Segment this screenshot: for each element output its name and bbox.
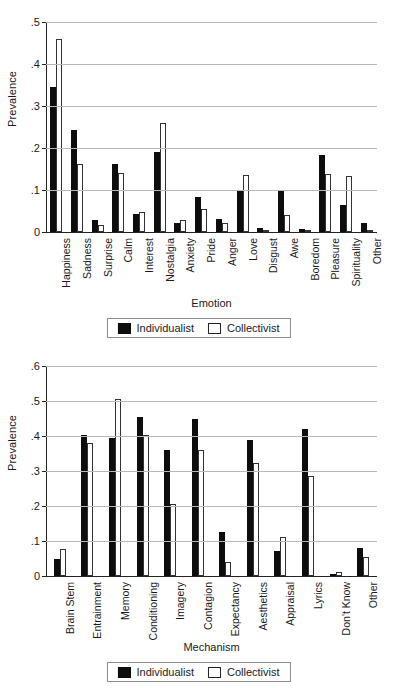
legend: Individualist Collectivist [106,318,290,338]
bar-collectivist [180,220,186,232]
gridline [46,106,377,107]
bar-collectivist [243,175,249,232]
y-axis-tick [42,366,46,367]
bar-group [108,22,129,232]
bar-collectivist [87,443,93,576]
mechanism-prevalence-chart: Prevalence 0.1.2.3.4.5.6 Brain StemEntra… [0,344,397,688]
x-axis-line [46,576,377,577]
bar-collectivist [346,176,352,232]
bar-collectivist [308,476,314,576]
bar-groups [46,22,377,232]
x-axis-tick-label: Other [368,582,379,608]
plot-area: 0.1.2.3.4.5 [46,22,377,232]
x-axis-tick-label-slot: Happiness [46,236,67,294]
y-axis-tick-label: 0 [34,227,40,238]
y-axis-tick-label: .6 [31,361,40,372]
legend-swatch-individualist-icon [117,667,130,678]
y-axis-tick [42,106,46,107]
bar-collectivist [160,123,166,232]
bar-group [294,22,315,232]
bar-group [315,22,336,232]
legend-entry-individualist: Individualist [117,322,193,334]
bar-collectivist [56,39,62,232]
x-axis-tick-label-slot: Disgust [253,236,274,294]
x-axis-tick-label-slot: Other [356,236,377,294]
y-axis-tick [42,64,46,65]
x-axis-tick-label-slot: Pleasure [315,236,336,294]
x-axis-tick-label-slot: Calm [108,236,129,294]
x-axis-line [46,232,377,233]
bar-collectivist [98,225,104,232]
legend: Individualist Collectivist [106,662,290,682]
x-axis-title: Mechanism [46,641,377,653]
x-axis-tick-label-slot: Appraisal [267,580,295,638]
bar-collectivist [336,572,342,576]
x-axis-tick-label-slot: Boredom [294,236,315,294]
y-axis-tick [42,576,46,577]
y-axis-tick-label: .1 [31,185,40,196]
x-axis-tick-label-slot: Spirituality [336,236,357,294]
bar-collectivist [225,562,231,576]
bar-group [87,22,108,232]
gridline [46,366,377,367]
gridline [46,436,377,437]
gridline [46,190,377,191]
x-axis-tick-label-slot: Surprise [87,236,108,294]
gridline [46,401,377,402]
y-axis-tick [42,232,46,233]
x-axis-tick-label-slot: Brain Stem [46,580,74,638]
legend-label-individualist: Individualist [136,666,193,678]
legend-entry-collectivist: Collectivist [208,666,280,678]
y-axis-tick [42,471,46,472]
x-axis-tick-label-slot: Conditioning [129,580,157,638]
gridline [46,64,377,65]
bar-collectivist [60,549,66,576]
bar-collectivist [363,557,369,576]
x-axis-tick-label-slot: Nostalgia [149,236,170,294]
legend-label-collectivist: Collectivist [227,322,280,334]
bar-group [274,22,295,232]
bar-collectivist [284,215,290,232]
x-axis-tick-label-slot: Pride [191,236,212,294]
x-axis-tick-labels: Brain StemEntrainmentMemoryConditioningI… [46,580,377,638]
x-axis-tick-label-slot: Lyrics [294,580,322,638]
legend-swatch-collectivist-icon [208,323,221,334]
bar-collectivist [305,230,311,232]
bar-collectivist [253,463,259,576]
bar-collectivist [222,223,228,232]
x-axis-tick-label-slot: Don't Know [322,580,350,638]
y-axis-tick-label: .4 [31,431,40,442]
x-axis-tick-label-slot: Interest [129,236,150,294]
x-axis-title: Emotion [46,297,377,309]
x-axis-tick-label-slot: Awe [274,236,295,294]
bar-group [191,22,212,232]
bar-group [336,22,357,232]
y-axis-tick-label: .5 [31,17,40,28]
y-axis-tick [42,506,46,507]
bar-collectivist [325,174,331,232]
legend-entry-collectivist: Collectivist [208,322,280,334]
plot-area: 0.1.2.3.4.5.6 [46,366,377,576]
y-axis-tick-label: .5 [31,396,40,407]
legend-label-collectivist: Collectivist [227,666,280,678]
y-axis-tick-label: 0 [34,571,40,582]
gridline [46,506,377,507]
bar-collectivist [280,537,286,576]
x-axis-tick-label-slot: Anxiety [170,236,191,294]
bar-group [46,22,67,232]
x-axis-tick-label-slot: Entrainment [74,580,102,638]
y-axis-title: Prevalence [6,415,18,471]
bar-group [232,22,253,232]
bar-group [356,22,377,232]
x-axis-tick-label-slot: Expectancy [211,580,239,638]
legend-swatch-collectivist-icon [208,667,221,678]
x-axis-tick-label-slot: Memory [101,580,129,638]
y-axis-tick [42,401,46,402]
y-axis-tick-label: .1 [31,536,40,547]
y-axis-tick-label: .2 [31,501,40,512]
gridline [46,22,377,23]
y-axis-tick [42,436,46,437]
y-axis-title: Prevalence [6,71,18,127]
legend-label-individualist: Individualist [136,322,193,334]
x-axis-tick-label-slot: Sadness [67,236,88,294]
